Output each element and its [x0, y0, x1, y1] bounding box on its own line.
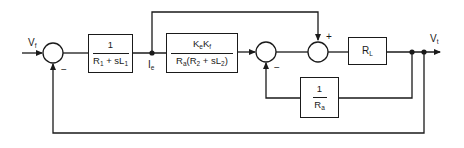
sj3-plus-sign: + [326, 32, 332, 42]
sj2-minus-sign: − [274, 63, 280, 73]
summing-junction-1 [43, 43, 63, 63]
summing-junction-2 [256, 42, 276, 62]
sj1-minus-sign: − [61, 65, 67, 75]
block-field-fraction: 1 R1 + sL1 [88, 34, 133, 73]
block-field-denominator: R1 + sL1 [93, 54, 128, 67]
block-armature-fraction: KeKf Ra(R2 + sL2) [166, 33, 238, 73]
block-field-numerator: 1 [108, 40, 113, 53]
input-label: Vf [28, 38, 36, 50]
node-outer-feedback [421, 49, 426, 54]
block-load-label: RL [348, 37, 387, 65]
node-inner-feedback [409, 49, 414, 54]
block-armature-numerator: KeKf [193, 39, 211, 52]
block-inner-feedback-numerator: 1 [317, 84, 322, 97]
node-ie-label: Ie [148, 60, 154, 72]
summing-junction-3 [308, 42, 328, 62]
block-inner-feedback-denominator: Ra [314, 98, 325, 111]
block-armature-denominator: Ra(R2 + sL2) [176, 54, 228, 67]
block-inner-feedback-fraction: 1 Ra [300, 77, 339, 118]
node-ie [149, 50, 154, 55]
block-diagram-wiring [0, 0, 464, 148]
output-label: Vt [430, 34, 438, 46]
